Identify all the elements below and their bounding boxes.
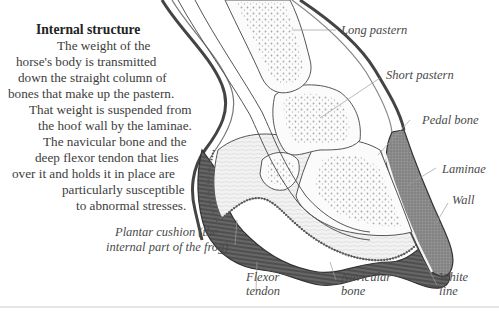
intro-line: That weight is suspended from <box>29 102 192 118</box>
label-plantar-cushion-line1: Plantar cushion (the <box>115 225 218 239</box>
intro-line: deep flexor tendon that lies <box>35 150 179 166</box>
label-flexor-tendon-line1: Flexor <box>246 270 279 284</box>
intro-line: particularly susceptible <box>62 182 185 198</box>
label-white-line-line1: White <box>439 270 468 284</box>
intro-line: horse's body is transmitted <box>16 54 156 70</box>
section-title: Internal structure <box>36 22 140 38</box>
label-wall: Wall <box>452 193 474 207</box>
intro-line: bones that make up the pastern. <box>8 86 174 102</box>
intro-line: The weight of the <box>57 38 150 54</box>
label-navicular-bone-line2: bone <box>341 284 365 298</box>
label-long-pastern: Long pastern <box>341 23 407 37</box>
intro-line: down the straight column of <box>18 70 167 86</box>
label-navicular-bone-line1: Navicular <box>341 270 391 284</box>
hoof-anatomy-diagram: Internal structure The weight of the hor… <box>0 0 499 313</box>
label-pedal-bone: Pedal bone <box>422 113 479 127</box>
label-short-pastern: Short pastern <box>386 68 454 82</box>
intro-line: the hoof wall by the laminae. <box>38 118 192 134</box>
intro-line: to abnormal stresses. <box>76 198 186 214</box>
bottom-divider <box>0 306 499 308</box>
label-flexor-tendon-line2: tendon <box>246 284 280 298</box>
intro-line: The navicular bone and the <box>43 134 187 150</box>
label-laminae: Laminae <box>442 162 486 176</box>
intro-line: over it and holds it in place are <box>12 166 175 182</box>
label-white-line-line2: line <box>439 284 458 298</box>
label-plantar-cushion-line2: internal part of the frog) <box>106 240 228 254</box>
